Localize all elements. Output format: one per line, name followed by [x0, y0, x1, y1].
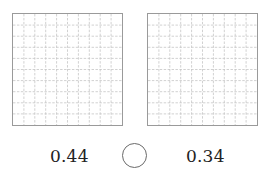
left-decimal-value: 0.44	[50, 145, 89, 167]
decimal-grid-left	[12, 13, 123, 126]
grid-lines-left	[13, 14, 122, 125]
comparison-answer-circle[interactable]	[122, 143, 147, 168]
decimal-grid-right	[147, 13, 258, 126]
grid-lines-right	[148, 14, 257, 125]
right-decimal-value: 0.34	[186, 145, 225, 167]
